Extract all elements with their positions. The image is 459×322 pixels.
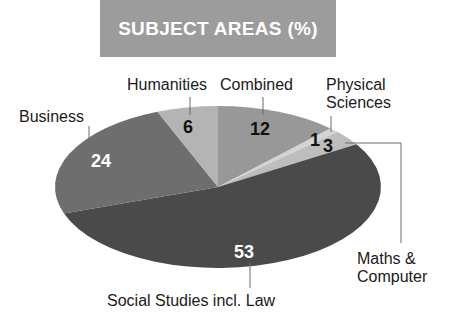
label-maths-line2: Computer <box>357 268 427 286</box>
value-maths: 3 <box>323 137 333 155</box>
label-combined: Combined <box>220 76 293 94</box>
value-combined: 12 <box>250 120 270 138</box>
label-physical-line1: Physical <box>326 76 386 94</box>
label-humanities: Humanities <box>127 76 207 94</box>
value-business: 24 <box>91 152 111 170</box>
label-business: Business <box>19 108 84 126</box>
value-humanities: 6 <box>183 118 193 136</box>
label-social-studies: Social Studies incl. Law <box>107 292 275 310</box>
label-physical-line2: Sciences <box>326 94 391 112</box>
value-social-studies: 53 <box>234 243 254 261</box>
label-maths-line1: Maths & <box>357 250 416 268</box>
pie-slices <box>55 106 381 268</box>
value-physical: 1 <box>310 131 320 149</box>
